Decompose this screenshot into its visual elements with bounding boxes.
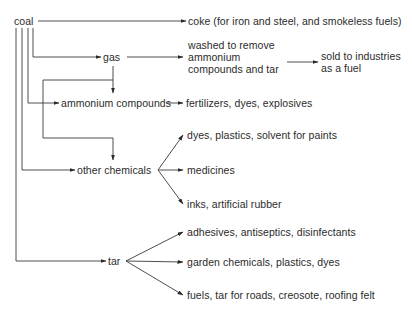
node-ammonium-uses: fertilizers, dyes, explosives: [186, 97, 312, 109]
node-washed-line2: ammonium: [188, 51, 240, 63]
arrow-other-dyes: [158, 135, 183, 170]
node-ammonium: ammonium compounds: [61, 97, 171, 109]
node-other-chemicals: other chemicals: [77, 164, 151, 176]
arrow-tar-adhesives: [126, 232, 183, 261]
node-washed-line1: washed to remove: [188, 39, 275, 51]
arrow-tar-garden: [126, 261, 183, 262]
node-washed-line3: compounds and tar: [188, 63, 279, 75]
node-tar-uses-fuels: fuels, tar for roads, creosote, roofing …: [187, 289, 375, 301]
node-sold-line1: sold to industries: [321, 50, 401, 62]
arrow-tar-fuels: [126, 261, 183, 295]
arrow-gas-other: [43, 80, 113, 160]
node-tar: tar: [108, 255, 120, 267]
node-coal: coal: [14, 15, 33, 27]
node-tar-uses-adhesives: adhesives, antiseptics, disinfectants: [187, 226, 356, 238]
node-other-uses-dyes: dyes, plastics, solvent for paints: [187, 129, 337, 141]
arrow-other-inks: [158, 170, 183, 204]
node-other-uses-inks: inks, artificial rubber: [187, 198, 282, 210]
node-tar-uses-garden: garden chemicals, plastics, dyes: [187, 256, 340, 268]
node-sold-line2: as a fuel: [321, 62, 361, 74]
node-gas: gas: [103, 51, 120, 63]
node-coke: coke (for iron and steel, and smokeless …: [188, 15, 402, 27]
node-other-uses-medicines: medicines: [187, 164, 235, 176]
